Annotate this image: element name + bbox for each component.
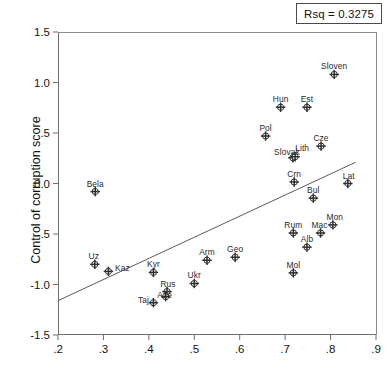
- data-point-label: Mac: [312, 220, 328, 230]
- data-point-label: Aze: [157, 290, 172, 300]
- data-point-label: Geo: [227, 244, 243, 254]
- x-tick-label: .6: [227, 343, 253, 355]
- data-point-label: Arm: [199, 247, 215, 257]
- data-point-label: Mol: [286, 260, 300, 270]
- scatter-plot-figure: Rsq = 0.3275 -1.5-1.0-.50.0.51.01.5 .2.3…: [0, 0, 391, 376]
- x-tick-label: .4: [136, 343, 162, 355]
- data-point-label: Cze: [313, 133, 328, 143]
- data-point-label: Est: [301, 94, 313, 104]
- data-point-label: Ukr: [188, 270, 201, 280]
- data-point-label: Rus: [160, 279, 175, 289]
- data-point-label: Kaz: [115, 263, 130, 273]
- data-point-label: Sloven: [321, 61, 347, 71]
- data-point-label: Lat: [343, 171, 355, 181]
- data-point-label: Taj: [138, 295, 149, 305]
- data-point-label: Uz: [89, 251, 99, 261]
- y-tick-label: -1.5: [16, 329, 50, 341]
- data-point-label: Pol: [259, 123, 271, 133]
- chart-canvas: [0, 0, 391, 376]
- y-tick-label: 1.5: [16, 26, 50, 38]
- data-point-label: Kyr: [147, 259, 160, 269]
- data-point-label: Alb: [301, 234, 313, 244]
- x-tick-label: .8: [318, 343, 344, 355]
- data-point-label: Hun: [273, 94, 289, 104]
- y-axis-title: Control of corruption score: [29, 80, 43, 300]
- x-tick-label: .7: [272, 343, 298, 355]
- x-tick-label: .9: [363, 343, 389, 355]
- data-point-label: Lith: [295, 143, 309, 153]
- x-tick-label: .3: [90, 343, 116, 355]
- x-tick-label: .2: [45, 343, 71, 355]
- data-point-label: Crn: [287, 169, 301, 179]
- data-point-label: Mon: [327, 212, 344, 222]
- data-point-label: Rum: [284, 220, 302, 230]
- data-point-label: Bul: [307, 185, 319, 195]
- data-point-label: Bela: [87, 179, 104, 189]
- x-tick-label: .5: [181, 343, 207, 355]
